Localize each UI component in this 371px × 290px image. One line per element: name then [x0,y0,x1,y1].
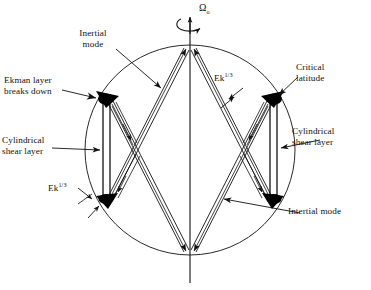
label-ek-scale-mid: Ek1/3 [214,73,248,84]
leader-ek-scale-mid [221,88,243,108]
label-ek-scale-mid-exponent: 1/3 [224,71,232,78]
label-cylindrical-shear-layer-right: Cylindrical shear layer [292,126,371,147]
label-cylindrical-shear-layer-left: Cylindrical shear layer [2,135,90,156]
label-ek-scale-left-exponent: 1/3 [58,181,66,188]
label-ek-scale-left: Ek1/3 [48,183,82,194]
critical-latitude-point-lower-left [96,193,118,209]
label-ekman-breaks-down: Ekman layer breaks down [4,75,90,96]
inertial-beam-ur-to-south [191,101,272,252]
label-rotation-rate-symbol: Ω [199,2,207,13]
figure-root: Inertial mode Ekman layer breaks down Cy… [0,0,371,290]
cylindrical-shear-layer-right [270,100,277,200]
label-intertial-mode: Intertial mode [288,206,370,217]
leader-inertial-mode [116,49,161,88]
inner-beam-left [112,102,140,198]
label-ek-scale-left-base: Ek [48,183,58,193]
cylindrical-shear-layer-left [103,100,110,200]
label-ek-scale-mid-base: Ek [214,73,224,83]
inertial-beam-ul-to-south [108,101,189,252]
label-critical-latitude: Critical latitude [296,62,368,83]
inner-beam-right [240,102,268,198]
inertial-beam-ll-to-north [108,48,189,199]
rotation-arrow-icon [177,19,200,31]
label-inertial-mode: Inertial mode [60,28,126,49]
label-rotation-rate-subscript: o [207,8,210,15]
label-rotation-rate: Ωo [199,3,229,14]
